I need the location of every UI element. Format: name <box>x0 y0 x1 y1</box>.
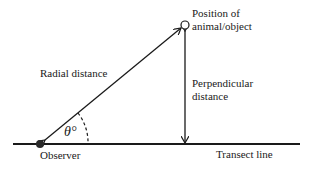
distance-sampling-diagram <box>0 0 310 169</box>
transect-line-label: Transect line <box>216 148 273 161</box>
object-label-line2: animal/object <box>192 20 252 33</box>
perp-label-line2: distance <box>192 90 253 103</box>
perpendicular-distance-label: Perpendicular distance <box>192 77 253 103</box>
perp-label-line1: Perpendicular <box>192 77 253 90</box>
object-circle <box>181 21 189 29</box>
object-label-line1: Position of <box>192 7 252 20</box>
observer-dot <box>36 140 44 148</box>
angle-arc <box>78 113 88 144</box>
radial-distance-label: Radial distance <box>40 67 108 80</box>
object-label: Position of animal/object <box>192 7 252 33</box>
observer-label: Observer <box>40 149 80 162</box>
angle-label: θ° <box>64 124 76 140</box>
